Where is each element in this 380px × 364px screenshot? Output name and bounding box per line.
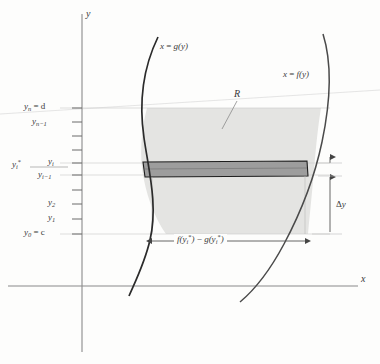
- tick-label-y2-sub: 2: [52, 201, 55, 208]
- tick-label-yi1-sub: i−1: [42, 173, 51, 180]
- region-label-R: R: [234, 89, 240, 99]
- width-annotation-label: f(yi*) − g(yi*): [174, 234, 227, 245]
- sample-point-label: yi*: [12, 159, 21, 170]
- tick-label-yn: yn = d: [24, 102, 45, 112]
- curve-label-f-eq: =: [289, 69, 294, 79]
- curve-label-g-var: x: [160, 41, 164, 51]
- tick-label-y2: y2: [48, 198, 55, 208]
- tick-label-y0-eq: = c: [31, 227, 45, 237]
- tick-label-y1-sub: 1: [52, 216, 55, 223]
- curve-label-g: x = g(y): [160, 42, 188, 51]
- x-axis-label: x: [361, 274, 365, 284]
- tick-label-yn-eq: = d: [31, 101, 45, 111]
- width-g-base: g(y: [204, 234, 216, 244]
- tick-label-y0: y0 = c: [24, 228, 45, 238]
- y-axis-label: y: [86, 9, 90, 19]
- tick-label-yn1-sub: n−1: [36, 120, 47, 127]
- sample-point-star: *: [18, 158, 21, 165]
- width-minus: −: [195, 234, 205, 244]
- thickness-dimension: [312, 157, 342, 234]
- tick-label-yi-sub: i: [52, 160, 54, 167]
- thickness-annotation-label: Δy: [336, 200, 346, 209]
- width-f-base: f(y: [177, 234, 187, 244]
- tick-label-yn1: yn−1: [32, 117, 47, 127]
- curve-label-f-var: x: [283, 69, 287, 79]
- curve-label-g-eq: =: [166, 41, 171, 51]
- curve-label-f-fn: f(y): [297, 69, 310, 79]
- tick-label-y1: y1: [48, 213, 55, 223]
- width-g-close: ): [221, 234, 224, 244]
- region-of-integration-figure: y x x = g(y) x = f(y) R yn = d yn−1 yi y…: [0, 0, 380, 364]
- tick-label-yi: yi: [48, 157, 54, 167]
- representative-rectangle: [143, 161, 308, 177]
- figure-canvas: [0, 0, 380, 364]
- curve-label-g-fn: g(y): [174, 41, 189, 51]
- curve-label-f: x = f(y): [283, 70, 309, 79]
- y-axis-ticks: [72, 108, 82, 234]
- tick-label-yi1: yi−1: [38, 170, 51, 180]
- delta-var: y: [342, 199, 346, 209]
